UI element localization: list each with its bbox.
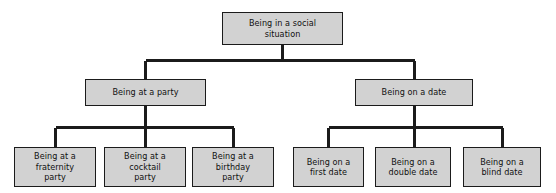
node-blind-date-label: Being on a blind date [478, 157, 526, 178]
node-being-on-a-date: Being on a date [355, 79, 473, 106]
node-double-date-label: Being on a double date [387, 157, 440, 178]
node-cocktail-party: Being at a cocktail party [104, 147, 186, 187]
node-being-at-a-party-label: Being at a party [110, 87, 180, 97]
node-birthday-party-label: Being at a birthday party [210, 151, 256, 182]
node-first-date: Being on a first date [293, 147, 364, 187]
node-being-at-a-party: Being at a party [85, 79, 206, 106]
node-blind-date: Being on a blind date [463, 147, 541, 187]
node-birthday-party: Being at a birthday party [192, 147, 274, 187]
hierarchy-diagram: Being in a social situation Being at a p… [0, 0, 556, 193]
node-fraternity-party-label: Being at a fraternity party [32, 151, 78, 182]
node-root: Being in a social situation [222, 12, 343, 45]
node-being-on-a-date-label: Being on a date [380, 87, 449, 97]
node-double-date: Being on a double date [375, 147, 451, 187]
node-cocktail-party-label: Being at a cocktail party [122, 151, 168, 182]
node-fraternity-party: Being at a fraternity party [14, 147, 96, 187]
node-first-date-label: Being on a first date [305, 157, 353, 178]
node-root-label: Being in a social situation [247, 18, 318, 39]
